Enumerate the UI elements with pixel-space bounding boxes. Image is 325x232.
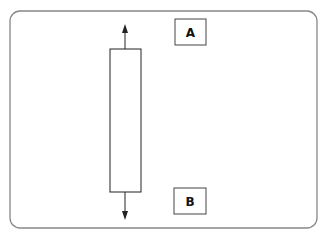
frame [10,11,317,228]
label-a: A [186,26,196,40]
label-box-a: A [175,19,206,45]
label-b: B [185,195,194,209]
candle-body [110,49,141,192]
diagram-canvas: A B [0,0,325,232]
label-box-b: B [174,188,206,214]
